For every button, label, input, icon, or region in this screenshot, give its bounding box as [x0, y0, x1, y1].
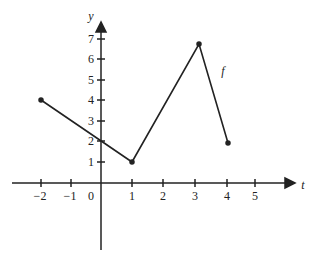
data-point — [39, 98, 43, 102]
x-tick-label: 5 — [252, 189, 258, 204]
curve-label: f — [221, 64, 224, 79]
y-tick-label: 4 — [88, 93, 94, 108]
y-tick-label: 2 — [88, 134, 94, 149]
x-tick-label: −1 — [64, 189, 77, 204]
y-axis-label: y — [88, 9, 93, 24]
data-point — [197, 42, 201, 46]
data-point — [226, 141, 230, 145]
y-tick-label: 5 — [88, 73, 94, 88]
x-tick-label: 3 — [192, 189, 198, 204]
x-tick-label: 1 — [129, 189, 135, 204]
y-tick-label: 6 — [88, 52, 94, 67]
data-point — [130, 160, 134, 164]
y-tick-label: 7 — [88, 32, 94, 47]
x-tick-label: 4 — [224, 189, 230, 204]
function-f-line — [41, 44, 228, 162]
x-tick-label: −2 — [34, 189, 47, 204]
graph — [0, 0, 313, 264]
x-axis-arrow-icon — [285, 178, 295, 188]
x-axis-label: t — [301, 178, 304, 193]
x-tick-label: 2 — [160, 189, 166, 204]
x-tick-label: 0 — [88, 189, 94, 204]
y-tick-label: 3 — [88, 114, 94, 129]
y-axis-arrow-icon — [96, 22, 106, 32]
y-tick-label: 1 — [88, 155, 94, 170]
